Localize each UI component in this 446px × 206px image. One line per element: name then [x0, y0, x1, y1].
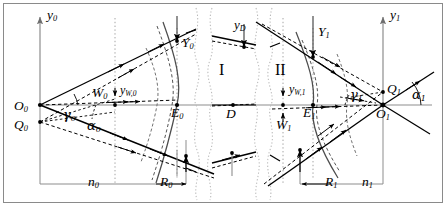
- label-D: D: [226, 107, 236, 121]
- ray-lower-chief-left: [40, 122, 214, 178]
- label-R1: R1: [325, 175, 337, 190]
- diagram-canvas: [0, 0, 446, 206]
- label-y1-axis: y1: [390, 8, 400, 23]
- label-Q0: Q0: [14, 118, 28, 133]
- label-n1: n1: [362, 175, 373, 190]
- label-Q1: Q1: [387, 82, 401, 97]
- figure-border: [4, 4, 443, 203]
- label-n0: n0: [88, 175, 99, 190]
- dimension-baseline: [40, 105, 383, 184]
- label-alpha0: α0: [87, 119, 101, 134]
- label-gamma0: γ0: [63, 108, 76, 123]
- label-y0-axis: y0: [47, 8, 57, 23]
- angle-arc-gamma1: [345, 95, 349, 105]
- label-W1: W1: [276, 118, 291, 133]
- ray-exit-lower: [383, 105, 430, 134]
- ray-mid-lower: [212, 152, 256, 168]
- ray-upper-marginal-left: [40, 29, 196, 105]
- label-O1: O1: [376, 107, 390, 122]
- label-region-I: I: [219, 62, 224, 78]
- ray-diagram-figure: y0 y1 yD Y0 Y1 W0 yW,0 yW,1 W1 O0 Q0 O1 …: [0, 0, 446, 206]
- label-gamma1: γ1: [350, 88, 363, 103]
- label-W0: W0: [92, 86, 107, 101]
- break-boundary-1: [195, 8, 213, 200]
- label-yW0: yW,0: [120, 84, 136, 97]
- ray-mid-upper: [212, 36, 256, 49]
- angle-arc-alpha0: [92, 105, 96, 119]
- label-O0: O0: [14, 99, 28, 114]
- label-Y0: Y0: [182, 36, 194, 51]
- label-alpha1: α1: [412, 88, 426, 103]
- label-region-II: II: [275, 62, 286, 78]
- label-yW1: yW,1: [289, 83, 305, 96]
- label-E0: E0: [171, 106, 183, 121]
- break-boundary-2: [255, 8, 273, 200]
- label-R0: R0: [160, 175, 172, 190]
- label-yD: yD: [234, 18, 246, 33]
- ray-axial-right: [272, 105, 383, 109]
- label-E1: E1: [303, 106, 315, 121]
- label-Y1: Y1: [318, 25, 330, 40]
